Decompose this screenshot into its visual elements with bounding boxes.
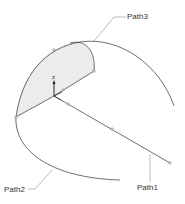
path2-leader <box>28 170 52 189</box>
path1-label: Path1 <box>137 184 158 192</box>
path2-curve <box>16 117 120 180</box>
axis-z-label: z <box>52 74 55 80</box>
path-diagram <box>0 0 185 204</box>
path3-label: Path3 <box>127 13 148 21</box>
path2-label: Path2 <box>4 186 25 194</box>
path3-leader <box>94 17 126 41</box>
